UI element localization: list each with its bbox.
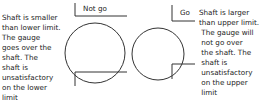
right-line: on the upper <box>199 78 259 88</box>
right-line: unsatisfactory <box>199 68 259 78</box>
not-go-lower-jaw <box>75 72 127 86</box>
left-line: The gauge <box>2 33 61 43</box>
right-line: Shaft is larger <box>199 8 259 18</box>
left-line: Shaft is smaller <box>2 13 61 23</box>
left-line: limit <box>2 93 61 103</box>
left-line: unsatisfactory <box>2 73 61 83</box>
right-line: shaft is <box>199 58 259 68</box>
right-shaft-circle <box>132 28 184 80</box>
go-lower-jaw <box>172 64 195 79</box>
left-line: shaft. The <box>2 53 61 63</box>
left-line: than lower limit. <box>2 23 61 33</box>
right-line: limit <box>199 88 259 98</box>
left-shaft-circle <box>65 23 125 83</box>
left-description: Shaft is smaller than lower limit. The g… <box>2 13 61 103</box>
right-line: than upper limit. <box>199 18 259 28</box>
left-line: on the lower <box>2 83 61 93</box>
right-description: Shaft is larger than upper limit. The ga… <box>199 8 259 98</box>
go-label: Go <box>180 8 190 18</box>
right-line: the shaft. The <box>199 48 259 58</box>
right-line: not go over <box>199 38 259 48</box>
not-go-label: Not go <box>83 4 107 14</box>
right-line: The gauge will <box>199 28 259 38</box>
left-line: shaft is <box>2 63 61 73</box>
left-line: goes over the <box>2 43 61 53</box>
